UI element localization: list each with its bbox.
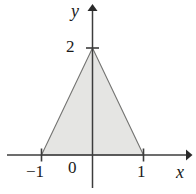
- x-tick-label-minus-1: −1: [26, 163, 44, 180]
- y-tick-label-2: 2: [66, 38, 75, 55]
- x-tick-label-1: 1: [137, 163, 146, 180]
- x-axis-arrowhead: [186, 150, 193, 161]
- y-axis-label: y: [71, 2, 79, 20]
- x-axis-label: x: [176, 163, 184, 181]
- graph-figure: y x 2 −1 0 1: [0, 0, 196, 194]
- y-axis-arrowhead: [88, 4, 98, 11]
- origin-label: 0: [68, 159, 77, 176]
